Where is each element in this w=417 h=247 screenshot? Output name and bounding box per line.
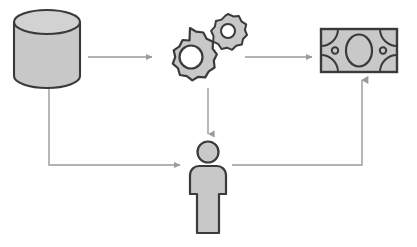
banknote-dot-right <box>380 47 386 53</box>
gear-large-hub <box>180 46 203 69</box>
connector-db-to-person <box>49 88 180 165</box>
money-banknote-icon[interactable] <box>321 29 397 72</box>
banknote-dot-left <box>332 47 338 53</box>
gears-icon[interactable] <box>173 14 247 80</box>
database-cylinder-icon[interactable] <box>14 10 80 88</box>
gear-small-hub <box>221 24 235 38</box>
person-icon[interactable] <box>190 142 226 234</box>
banknote-center-portrait <box>346 35 372 67</box>
diagram-canvas <box>0 0 417 247</box>
connector-person-to-money <box>232 80 362 165</box>
diagram-svg <box>0 0 417 247</box>
gear-small <box>211 14 247 50</box>
database-top-ellipse <box>14 10 80 34</box>
person-body <box>190 166 226 233</box>
person-head <box>198 142 219 163</box>
gear-large <box>173 28 217 80</box>
